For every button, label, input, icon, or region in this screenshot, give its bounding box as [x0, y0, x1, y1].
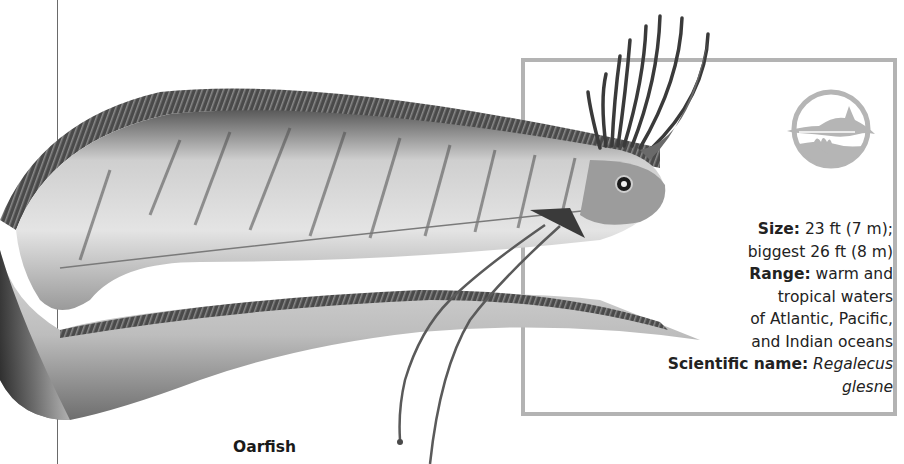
fact-range-line4: and Indian oceans: [633, 331, 893, 354]
fact-list: Size: 23 ft (7 m); biggest 26 ft (8 m) R…: [633, 218, 893, 398]
fact-size: Size: 23 ft (7 m);: [633, 218, 893, 241]
fact-range-line3: of Atlantic, Pacific,: [633, 308, 893, 331]
fact-range-line2: tropical waters: [633, 286, 893, 309]
illustration-caption: Oarfish: [233, 438, 296, 456]
fact-range: Range: warm and: [633, 263, 893, 286]
fact-scientific-name: Scientific name: Regalecus glesne: [633, 353, 893, 398]
fact-size-max: biggest 26 ft (8 m): [633, 241, 893, 264]
